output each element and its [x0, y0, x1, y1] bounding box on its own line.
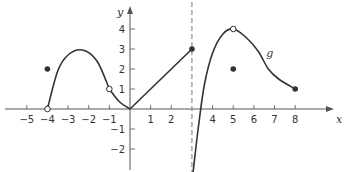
function-curves	[47, 29, 295, 172]
function-graph: −5−4−3−2−11245678 4321−1−2 xyg	[0, 0, 345, 172]
x-tick-label: 5	[230, 114, 236, 125]
x-tick-label: 1	[147, 114, 153, 125]
x-tick-label: 2	[168, 114, 174, 125]
y-axis-label: y	[116, 6, 124, 19]
y-tick-label: −2	[110, 144, 125, 155]
x-tick-label: 7	[271, 114, 277, 125]
function-name-label: g	[266, 47, 273, 60]
y-tick-label: 4	[119, 24, 125, 35]
x-tick-label: 6	[251, 114, 257, 125]
y-tick-label: 2	[119, 64, 125, 75]
closed-point	[45, 66, 51, 72]
x-axis-label: x	[336, 113, 343, 126]
x-axis: −5−4−3−2−11245678	[5, 105, 334, 125]
open-point	[45, 106, 51, 112]
curve-right-branch	[193, 29, 295, 172]
y-axis-arrow-icon	[127, 6, 133, 14]
curve-hump	[47, 50, 109, 109]
x-tick-label: −2	[81, 114, 96, 125]
x-tick-label: −3	[61, 114, 76, 125]
closed-point	[189, 46, 195, 52]
axis-labels: xyg	[116, 6, 343, 126]
closed-point	[230, 66, 236, 72]
y-tick-label: 3	[119, 44, 125, 55]
open-point	[230, 26, 236, 32]
x-tick-label: 8	[292, 114, 298, 125]
curve-linear	[130, 49, 192, 109]
y-tick-label: 1	[119, 84, 125, 95]
y-tick-label: −1	[110, 124, 125, 135]
x-tick-label: −4	[40, 114, 55, 125]
closed-point	[292, 86, 298, 92]
x-axis-arrow-icon	[326, 106, 334, 112]
y-axis: 4321−1−2	[110, 6, 135, 170]
x-tick-label: 4	[209, 114, 215, 125]
open-point	[107, 86, 113, 92]
x-tick-label: −5	[19, 114, 34, 125]
